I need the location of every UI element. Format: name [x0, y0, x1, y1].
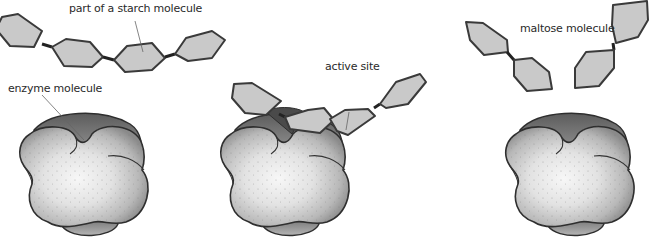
- starch-label: part of a starch molecule: [69, 2, 202, 15]
- maltose-molecule-right: [575, 1, 648, 88]
- starch-molecule: [0, 14, 225, 72]
- enzyme-label: enzyme molecule: [8, 82, 102, 95]
- enzyme-molecule-2: [221, 113, 349, 235]
- enzyme-molecule-3: [506, 113, 634, 235]
- diagram-canvas: [0, 0, 649, 248]
- active-site-label: active site: [325, 60, 380, 73]
- maltose-label: maltose molecule: [520, 22, 614, 35]
- enzyme-molecule-1: [20, 113, 148, 235]
